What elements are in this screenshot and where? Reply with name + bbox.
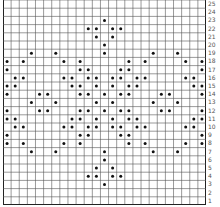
stitch-dot bbox=[62, 60, 65, 63]
stitch-dot bbox=[192, 85, 195, 88]
stitch-dot bbox=[95, 76, 98, 79]
stitch-dot bbox=[135, 85, 138, 88]
stitch-dot bbox=[14, 126, 17, 129]
stitch-dot bbox=[79, 68, 82, 71]
stitch-dot bbox=[127, 68, 130, 71]
stitch-dot bbox=[14, 85, 17, 88]
stitch-dot bbox=[111, 85, 114, 88]
row-label: 12 bbox=[208, 107, 216, 115]
stitch-dot bbox=[103, 44, 106, 47]
stitch-dot bbox=[30, 101, 33, 104]
row-label: 1 bbox=[208, 197, 212, 205]
stitch-dot bbox=[79, 85, 82, 88]
stitch-dot bbox=[176, 150, 179, 153]
stitch-dot bbox=[200, 117, 203, 120]
stitch-dot bbox=[111, 27, 114, 30]
stitch-dot bbox=[200, 142, 203, 145]
stitch-dot bbox=[200, 134, 203, 137]
stitch-dot bbox=[87, 109, 90, 112]
stitch-dot bbox=[22, 126, 25, 129]
stitch-dot bbox=[135, 126, 138, 129]
stitch-dot bbox=[119, 175, 122, 178]
stitch-dot bbox=[119, 109, 122, 112]
row-label: 9 bbox=[208, 131, 212, 139]
stitch-dot bbox=[79, 60, 82, 63]
stitch-dot bbox=[192, 126, 195, 129]
stitch-dot bbox=[144, 142, 147, 145]
stitch-dot bbox=[144, 126, 147, 129]
stitch-dot bbox=[168, 93, 171, 96]
stitch-dot bbox=[176, 101, 179, 104]
row-label: 18 bbox=[208, 57, 216, 65]
stitch-dot bbox=[127, 142, 130, 145]
stitch-dot bbox=[62, 126, 65, 129]
stitch-dot bbox=[62, 142, 65, 145]
row-label: 10 bbox=[208, 123, 216, 131]
stitch-dot bbox=[71, 76, 74, 79]
stitch-dot bbox=[22, 60, 25, 63]
stitch-dot bbox=[127, 60, 130, 63]
stitch-dot bbox=[95, 35, 98, 38]
row-label: 17 bbox=[208, 66, 216, 74]
stitch-dot bbox=[119, 27, 122, 30]
stitch-dot bbox=[119, 126, 122, 129]
stitch-dot bbox=[87, 134, 90, 137]
stitch-dot bbox=[111, 35, 114, 38]
stitch-dot bbox=[46, 109, 49, 112]
row-labels: 1234567891011121314151617181920212223242… bbox=[207, 0, 220, 205]
stitch-dot bbox=[95, 101, 98, 104]
stitch-dot bbox=[184, 76, 187, 79]
stitch-dot bbox=[22, 142, 25, 145]
stitch-dot bbox=[87, 76, 90, 79]
row-label: 11 bbox=[208, 115, 216, 123]
stitch-dot bbox=[200, 68, 203, 71]
stitch-dot bbox=[152, 101, 155, 104]
stitch-dot bbox=[95, 27, 98, 30]
stitch-dot bbox=[127, 85, 130, 88]
stitch-dot bbox=[111, 117, 114, 120]
stitch-dot bbox=[14, 117, 17, 120]
row-label: 3 bbox=[208, 180, 212, 188]
stitch-dot bbox=[119, 134, 122, 137]
stitch-dot bbox=[103, 52, 106, 55]
stitch-dot bbox=[135, 76, 138, 79]
stitch-dot bbox=[160, 93, 163, 96]
row-label: 24 bbox=[208, 8, 216, 16]
stitch-dot bbox=[111, 76, 114, 79]
stitch-dot bbox=[184, 142, 187, 145]
stitch-dot bbox=[87, 68, 90, 71]
row-label: 20 bbox=[208, 41, 216, 49]
stitch-dot bbox=[6, 142, 9, 145]
stitch-dot bbox=[71, 126, 74, 129]
stitch-dot bbox=[144, 60, 147, 63]
stitch-dot bbox=[79, 134, 82, 137]
row-label: 8 bbox=[208, 139, 212, 147]
stitch-dot bbox=[62, 76, 65, 79]
stitch-dot bbox=[200, 60, 203, 63]
row-label: 7 bbox=[208, 148, 212, 156]
stitch-dot bbox=[79, 109, 82, 112]
stitch-dot bbox=[200, 93, 203, 96]
stitch-dot bbox=[103, 19, 106, 22]
stitch-dot bbox=[79, 117, 82, 120]
stitch-dot bbox=[95, 85, 98, 88]
row-label: 6 bbox=[208, 156, 212, 164]
stitch-dot bbox=[54, 52, 57, 55]
stitch-dot bbox=[30, 52, 33, 55]
stitch-dot bbox=[6, 68, 9, 71]
stitch-dot bbox=[119, 93, 122, 96]
stitch-dot bbox=[6, 109, 9, 112]
stitch-dot bbox=[6, 117, 9, 120]
row-label: 15 bbox=[208, 82, 216, 90]
row-label: 13 bbox=[208, 98, 216, 106]
stitch-dot bbox=[103, 150, 106, 153]
row-label: 21 bbox=[208, 33, 216, 41]
stitch-dot bbox=[103, 109, 106, 112]
stitch-dot bbox=[46, 93, 49, 96]
stitch-chart-grid bbox=[3, 0, 206, 205]
stitch-dot bbox=[111, 126, 114, 129]
row-label: 19 bbox=[208, 49, 216, 57]
row-label: 2 bbox=[208, 189, 212, 197]
stitch-dot bbox=[135, 117, 138, 120]
stitch-dot bbox=[6, 60, 9, 63]
